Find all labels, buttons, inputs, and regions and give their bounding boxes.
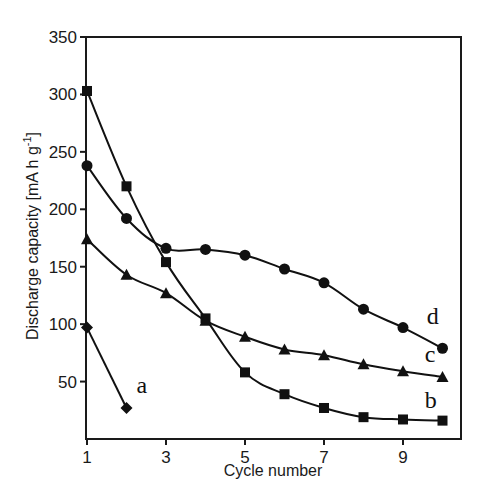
y-tick-label: 350 [49, 28, 77, 47]
axes: 1357950100150200250300350 [49, 28, 461, 467]
series-line-a [87, 328, 127, 408]
y-tick-label: 100 [49, 315, 77, 334]
marker-circle-icon [240, 250, 251, 261]
marker-circle-icon [82, 160, 93, 171]
series-label-a: a [136, 372, 147, 398]
y-axis-title-main: Discharge capacity [mA h g [24, 146, 41, 340]
marker-square-icon [280, 389, 290, 399]
series-c [81, 233, 449, 382]
series-label-b: b [425, 387, 437, 413]
marker-circle-icon [161, 243, 172, 254]
marker-square-icon [438, 416, 448, 426]
x-tick-label: 9 [398, 448, 407, 467]
y-tick-label: 250 [49, 143, 77, 162]
x-tick-label: 1 [82, 448, 91, 467]
series-line-d [87, 166, 443, 349]
y-tick-label: 300 [49, 85, 77, 104]
y-tick-label: 50 [58, 373, 77, 392]
marker-square-icon [398, 414, 408, 424]
series-label-d: d [427, 303, 439, 329]
x-tick-label: 3 [161, 448, 170, 467]
marker-diamond-icon [121, 402, 133, 414]
series-a [81, 322, 133, 414]
series-label-c: c [425, 341, 436, 367]
marker-triangle-icon [160, 287, 172, 298]
marker-square-icon [359, 412, 369, 422]
x-axis-title: Cycle number [224, 462, 323, 479]
marker-circle-icon [358, 304, 369, 315]
marker-circle-icon [319, 277, 330, 288]
marker-square-icon [161, 257, 171, 267]
discharge-capacity-chart: 1357950100150200250300350 abcd Cycle num… [0, 0, 490, 503]
series-line-c [87, 239, 443, 377]
marker-circle-icon [398, 322, 409, 333]
marker-circle-icon [200, 244, 211, 255]
y-axis-title-superscript: -1 [21, 136, 33, 146]
marker-square-icon [82, 86, 92, 96]
y-tick-label: 150 [49, 258, 77, 277]
marker-circle-icon [279, 264, 290, 275]
y-axis-title-end: ] [24, 132, 41, 136]
marker-square-icon [122, 181, 132, 191]
y-axis-title: Discharge capacity [mA h g-1] [21, 132, 41, 340]
marker-triangle-icon [81, 233, 93, 244]
marker-square-icon [319, 403, 329, 413]
marker-square-icon [240, 367, 250, 377]
marker-circle-icon [437, 343, 448, 354]
y-tick-label: 200 [49, 200, 77, 219]
marker-circle-icon [121, 213, 132, 224]
series-d [82, 160, 449, 354]
